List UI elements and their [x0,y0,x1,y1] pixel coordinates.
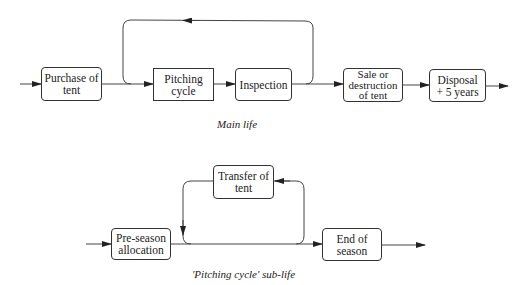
node-pre-season-allocation: Pre-season allocation [111,228,171,260]
node-pitching-cycle: Pitching cycle [153,68,214,101]
node-disposal: Disposal + 5 years [429,69,486,102]
node-label: End of season [337,233,368,257]
node-label: Transfer of tent [218,170,269,194]
node-inspection: Inspection [235,68,292,101]
node-sale-or-destruction: Sale or destruction of tent [343,68,403,102]
caption-main-life: Main life [217,118,257,130]
node-label: Inspection [240,79,288,91]
node-label: Sale or destruction of tent [349,69,398,101]
node-label: Purchase of tent [45,72,99,96]
node-purchase-of-tent: Purchase of tent [41,67,102,101]
caption-sub-life: 'Pitching cycle' sub-life [192,268,295,280]
node-label: Pitching cycle [164,73,202,97]
connector-lines [0,0,523,285]
node-label: Disposal + 5 years [436,74,478,98]
loop-transfer-to-line [183,181,213,244]
loop-line-to-transfer [274,181,304,244]
node-transfer-of-tent: Transfer of tent [213,165,274,199]
node-label: Pre-season allocation [116,232,166,256]
node-end-of-season: End of season [322,228,382,261]
